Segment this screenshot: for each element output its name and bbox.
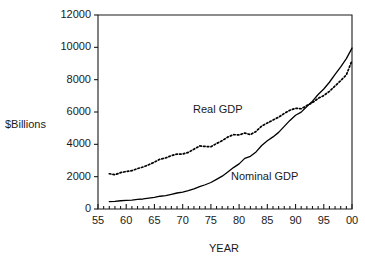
x-tick-label: 80 — [225, 215, 253, 226]
y-tick-label: 8000 — [67, 74, 91, 85]
y-axis-ticks — [94, 15, 98, 209]
series-line-real-gdp — [109, 61, 352, 175]
x-tick-label: 75 — [197, 215, 225, 226]
x-tick-label: 65 — [140, 215, 168, 226]
y-axis-title: $Billions — [5, 119, 46, 130]
y-tick-label: 6000 — [67, 106, 91, 117]
x-tick-label: 90 — [282, 215, 310, 226]
y-tick-label: 12000 — [60, 9, 91, 20]
y-tick-label: 2000 — [67, 171, 91, 182]
y-tick-label: 0 — [85, 203, 91, 214]
x-tick-label: 95 — [310, 215, 338, 226]
x-tick-label: 00 — [338, 215, 365, 226]
gdp-line-chart: 020004000600080001000012000 556065707580… — [0, 0, 365, 263]
series-label-real-gdp: Real GDP — [193, 104, 243, 115]
x-tick-label: 55 — [84, 215, 112, 226]
x-axis-title: YEAR — [209, 243, 239, 254]
x-tick-label: 85 — [253, 215, 281, 226]
x-tick-label: 70 — [169, 215, 197, 226]
x-tick-label: 60 — [112, 215, 140, 226]
series-label-nominal-gdp: Nominal GDP — [231, 171, 298, 182]
y-tick-label: 4000 — [67, 138, 91, 149]
x-axis-ticks — [98, 204, 352, 209]
y-tick-label: 10000 — [60, 41, 91, 52]
